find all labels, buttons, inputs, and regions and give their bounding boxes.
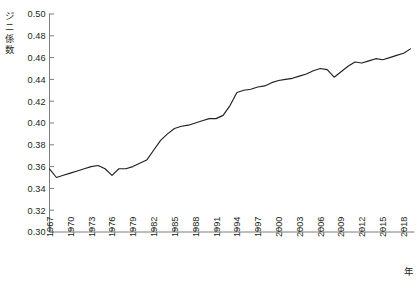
x-axis-title-group: 年 bbox=[404, 266, 413, 277]
x-tick-label: 1973 bbox=[87, 217, 97, 237]
x-tick-label: 1970 bbox=[66, 217, 76, 237]
y-tick-label: 0.44 bbox=[28, 75, 46, 85]
x-tick-label: 2003 bbox=[295, 217, 305, 237]
chart-canvas: 0.500.480.460.440.420.400.380.360.340.32… bbox=[0, 0, 419, 286]
x-tick-label: 2012 bbox=[357, 217, 367, 237]
x-tick-label: 1988 bbox=[191, 217, 201, 237]
x-tick-label: 1997 bbox=[253, 217, 263, 237]
x-tick-label: 2009 bbox=[336, 217, 346, 237]
x-axis-title: 年 bbox=[404, 266, 413, 277]
x-tick-label: 1976 bbox=[107, 217, 117, 237]
x-axis: 1967197019731976197919821985198819911994… bbox=[45, 217, 415, 237]
x-tick-label: 2006 bbox=[316, 217, 326, 237]
y-tick-label: 0.50 bbox=[28, 9, 46, 19]
plot-area bbox=[50, 49, 411, 178]
x-tick-label: 1985 bbox=[170, 217, 180, 237]
y-tick-label: 0.36 bbox=[28, 162, 46, 172]
y-tick-label: 0.42 bbox=[28, 97, 46, 107]
gini-coefficient-chart: ジ ニ 係 数 0.500.480.460.440.420.400.380.36… bbox=[0, 0, 419, 286]
y-tick-label: 0.32 bbox=[28, 206, 46, 216]
y-tick-label: 0.40 bbox=[28, 118, 46, 128]
y-tick-label: 0.34 bbox=[28, 184, 46, 194]
y-tick-label: 0.46 bbox=[28, 53, 46, 63]
y-tick-label: 0.48 bbox=[28, 31, 46, 41]
y-axis: 0.500.480.460.440.420.400.380.360.340.32… bbox=[28, 9, 54, 237]
x-tick-label: 2018 bbox=[399, 217, 409, 237]
x-tick-label: 1994 bbox=[232, 217, 242, 237]
series-line-ジニ係数 bbox=[50, 49, 411, 178]
x-tick-label: 2015 bbox=[378, 217, 388, 237]
x-tick-label: 1967 bbox=[45, 217, 55, 237]
x-tick-label: 2000 bbox=[274, 217, 284, 237]
x-tick-label: 1979 bbox=[128, 217, 138, 237]
y-tick-label: 0.30 bbox=[28, 227, 46, 237]
x-tick-label: 1991 bbox=[212, 217, 222, 237]
x-tick-label: 1982 bbox=[149, 217, 159, 237]
y-tick-label: 0.38 bbox=[28, 140, 46, 150]
